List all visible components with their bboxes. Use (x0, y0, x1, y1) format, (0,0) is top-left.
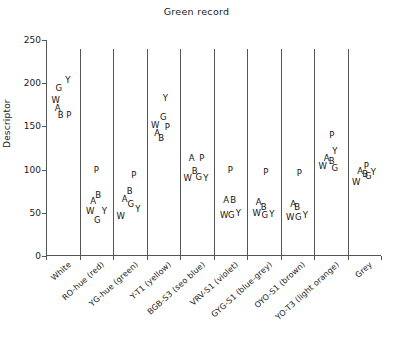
x-tick-mark (46, 256, 47, 260)
data-point-letter: P (131, 171, 136, 180)
category-divider-line (247, 49, 248, 256)
x-tick-mark (381, 256, 382, 260)
y-axis-line (46, 40, 47, 256)
data-point-letter: P (228, 165, 233, 174)
data-point-letter: P (199, 154, 204, 163)
data-point-letter: B (230, 196, 236, 205)
y-tick-label: 100 (24, 165, 41, 175)
data-point-letter: Y (102, 207, 107, 216)
data-point-letter: G (94, 216, 101, 225)
data-point-letter: Y (236, 209, 241, 218)
data-point-letter: W (253, 209, 261, 218)
category-divider-line (214, 49, 215, 256)
y-tick-mark (42, 213, 46, 214)
x-axis-label: White (49, 260, 73, 283)
data-point-letter: A (189, 154, 195, 163)
data-point-letter: W (286, 212, 294, 221)
data-point-letter: W (117, 211, 125, 220)
data-point-letter: Y (65, 76, 70, 85)
x-tick-mark (314, 256, 315, 260)
data-point-letter: G (55, 83, 62, 92)
y-tick-label: 0 (35, 251, 41, 261)
data-point-letter: G (160, 113, 167, 122)
chart-title: Green record (0, 6, 393, 17)
y-tick-label: 200 (24, 78, 41, 88)
data-point-letter: G (295, 212, 302, 221)
data-point-letter: G (195, 172, 202, 181)
data-point-letter: Y (332, 147, 337, 156)
y-tick-mark (42, 126, 46, 127)
category-divider-line (147, 49, 148, 256)
data-point-letter: B (158, 133, 164, 142)
data-point-letter: Y (371, 168, 376, 177)
x-tick-mark (214, 256, 215, 260)
data-point-letter: P (94, 165, 99, 174)
x-tick-mark (348, 256, 349, 260)
data-point-letter: W (184, 173, 192, 182)
plot-area: 050100150200250 GYWABPPABWGYPABGYWYGWPAB… (46, 40, 381, 256)
data-point-letter: P (263, 168, 268, 177)
x-axis-label: GYG-S1 (blue-grey) (209, 260, 273, 319)
y-tick-mark (42, 40, 46, 41)
x-axis-label: Grey (354, 260, 374, 280)
data-point-letter: G (261, 211, 268, 220)
x-tick-mark (147, 256, 148, 260)
y-tick-label: 150 (24, 121, 41, 131)
chart-figure: Green record Descriptor 050100150200250 … (0, 0, 393, 340)
category-divider-line (281, 49, 282, 256)
data-point-letter: P (329, 131, 334, 140)
data-point-letter: P (297, 169, 302, 178)
data-point-letter: Y (303, 211, 308, 220)
y-tick-mark (42, 83, 46, 84)
data-point-letter: Y (269, 210, 274, 219)
x-tick-mark (180, 256, 181, 260)
x-tick-mark (113, 256, 114, 260)
data-point-letter: Y (135, 204, 140, 213)
category-divider-line (113, 49, 114, 256)
y-axis-title: Descriptor (2, 99, 12, 148)
data-point-letter: G (127, 200, 134, 209)
y-tick-mark (42, 170, 46, 171)
x-axis-label: BGB-S3 (seo blue) (145, 260, 206, 316)
data-point-letter: P (165, 123, 170, 132)
data-point-letter: Y (163, 94, 168, 103)
y-tick-label: 250 (24, 35, 41, 45)
y-tick-label: 50 (30, 208, 41, 218)
data-point-letter: W (319, 162, 327, 171)
x-tick-mark (247, 256, 248, 260)
data-point-letter: B (127, 187, 133, 196)
category-divider-line (314, 49, 315, 256)
x-axis-label: YO-T3 (light orange) (274, 260, 341, 322)
data-point-letter: B (58, 111, 64, 120)
category-divider-line (180, 49, 181, 256)
data-point-letter: G (331, 164, 338, 173)
category-divider-line (348, 49, 349, 256)
x-tick-mark (80, 256, 81, 260)
data-point-letter: P (66, 111, 71, 120)
data-point-letter: G (228, 211, 235, 220)
data-point-letter: B (294, 202, 300, 211)
x-tick-mark (281, 256, 282, 260)
data-point-letter: A (223, 196, 229, 205)
category-divider-line (80, 49, 81, 256)
data-point-letter: Y (203, 174, 208, 183)
data-point-letter: W (352, 178, 360, 187)
data-point-letter: B (95, 191, 101, 200)
